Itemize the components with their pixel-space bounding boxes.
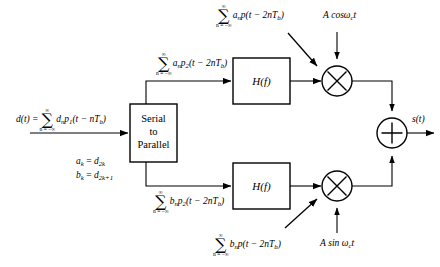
wire-lower-branch-to-filter bbox=[146, 162, 231, 186]
serial-to-parallel-line3: Parallel bbox=[137, 139, 169, 150]
mapping-a-label: ak = d2k bbox=[76, 156, 105, 167]
serial-to-parallel-line2: to bbox=[149, 126, 157, 137]
qpsk-modulator-diagram: Serial to Parallel H(f) H(f) bbox=[0, 0, 440, 267]
filter-upper-label: H(f) bbox=[251, 75, 271, 88]
upper-branch-signal-label: ∞∑n = −∞anp2(t − 2nTb) bbox=[155, 52, 227, 76]
serial-to-parallel-line1: Serial bbox=[141, 113, 166, 124]
wire-lower-to-adder bbox=[352, 156, 392, 186]
filter-lower-label: H(f) bbox=[251, 180, 271, 193]
wire-upper-to-adder bbox=[352, 81, 392, 111]
lower-branch-signal-label: ∞∑n = −∞bnp2(t − 2nTb) bbox=[152, 190, 224, 214]
mapping-b-label: bk = d2k+1 bbox=[76, 170, 113, 181]
output-signal-label: s(t) bbox=[412, 114, 425, 124]
carrier-cos-label: A cosωct bbox=[323, 10, 356, 21]
carrier-sin-label: A sin ωct bbox=[320, 238, 354, 249]
input-signal-label: d(t) =∞∑n = −∞dnp1(t − nTb) bbox=[16, 108, 106, 132]
pointer-upper-filtered-signal bbox=[288, 33, 317, 66]
lower-filtered-signal-label: ∞∑n = −∞bnp(t − 2nTb) bbox=[212, 233, 281, 257]
wire-upper-branch-to-filter bbox=[146, 81, 231, 104]
upper-filtered-signal-label: ∞∑n = −∞anp(t − 2nTb) bbox=[215, 4, 284, 28]
